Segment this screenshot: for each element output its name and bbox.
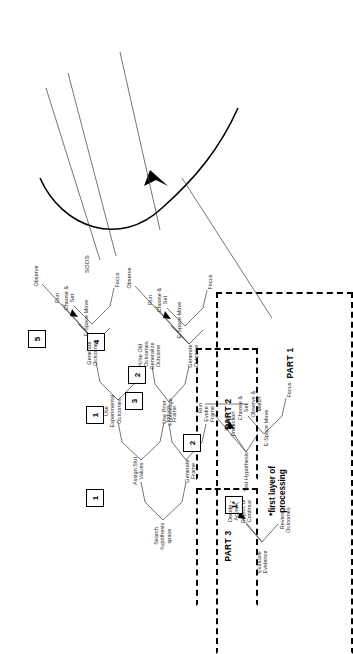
numbered-box-part3-1[interactable]: 1 bbox=[86, 489, 104, 507]
node-decide: Decide – Accept, Reject, or Continue bbox=[227, 499, 253, 523]
edge-assign-useexp bbox=[118, 422, 141, 460]
sdds-pointer-2 bbox=[68, 73, 116, 256]
node-run-lower: Run bbox=[147, 295, 153, 305]
node-run-part2: Run bbox=[197, 403, 203, 413]
node-run-upper: Run bbox=[54, 293, 60, 303]
node-generate-outcomes-upper: Generate Outcomes bbox=[86, 340, 99, 365]
numbered-box-part2-1[interactable]: 1 bbox=[86, 406, 104, 424]
node-evoke-frame: Evoke Frame bbox=[203, 406, 216, 422]
node-assign-slot-values: Assign Slot Values bbox=[132, 457, 145, 485]
edge-espace-focus-lower bbox=[185, 290, 207, 326]
node-generate-outcome-lower: Generate Outcome bbox=[187, 344, 200, 367]
node-make-prediction: Make Prediction bbox=[224, 411, 237, 436]
node-choose-set-upper: Choose & Set bbox=[63, 286, 76, 311]
edge-go-down-lower bbox=[189, 330, 203, 344]
numbered-box-part1-5[interactable]: 5 bbox=[28, 330, 46, 348]
node-observe-lower: Observe bbox=[126, 267, 132, 288]
node-espace-move-part2: E-Space Move bbox=[263, 410, 269, 447]
sdds-arrowhead bbox=[144, 170, 168, 186]
node-use-old-outcomes: Use Old Outcomes bbox=[137, 341, 150, 366]
sdds-pointer-1 bbox=[46, 88, 100, 260]
node-observe-match: Observe & Match bbox=[250, 391, 263, 417]
edge-induce-generate-outcome bbox=[169, 366, 189, 402]
node-espace-move-lower: E-Space Move bbox=[176, 302, 182, 339]
node-choose-set-lower: Choose & Set bbox=[156, 288, 169, 313]
node-search-hypothesis-space: Search hypothesis space bbox=[153, 523, 172, 550]
node-evaluate-evidence: Evaluate Evidence bbox=[256, 550, 269, 573]
node-focus-upper: Focus bbox=[114, 272, 120, 287]
node-choose-set-part2: Choose & Set bbox=[237, 396, 250, 421]
edge-induce-generalize bbox=[152, 366, 169, 402]
node-focus-lower: Focus bbox=[207, 274, 213, 289]
edge-root-assign bbox=[141, 482, 163, 520]
numbered-box-part1-2[interactable]: 2 bbox=[183, 434, 201, 452]
part-label-3: PART 3 bbox=[223, 530, 233, 561]
first-layer-callout: *first layer of processing bbox=[268, 466, 288, 516]
node-focus-part2: Focus bbox=[286, 382, 292, 397]
numbered-box-part2-2[interactable]: 2 bbox=[128, 366, 146, 384]
node-generalize-outcome: Generalize Outcome bbox=[149, 342, 162, 369]
node-generate-frame: Generate Frame bbox=[184, 459, 197, 482]
sdds-pointer-3 bbox=[120, 52, 160, 230]
node-observe-upper: Observe bbox=[33, 265, 39, 286]
sdds-label: SDDS bbox=[84, 255, 90, 273]
edge-assign-prior bbox=[141, 422, 164, 460]
node-espace-move-upper: E-Space Move bbox=[83, 300, 89, 337]
edge-espace-focus-upper bbox=[92, 288, 114, 324]
part-label-1: PART 1 bbox=[285, 347, 295, 378]
numbered-box-part1-3[interactable]: 3 bbox=[125, 392, 143, 410]
node-induce-frame: Induce Frame bbox=[165, 406, 178, 423]
node-use-experimental-outcomes: Use Experimental Outcomes bbox=[103, 395, 122, 428]
edge-root-generate-frame bbox=[163, 482, 186, 520]
node-test-hypothesis: Test Hypothesis bbox=[243, 452, 249, 492]
sdds-brace bbox=[40, 108, 238, 229]
